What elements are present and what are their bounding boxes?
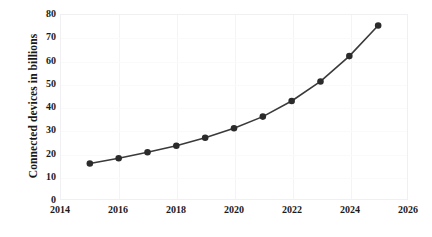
series-line xyxy=(90,25,378,163)
data-point-marker: 2015: 15.41 xyxy=(87,160,94,167)
data-point-marker: 2021: 35.82 xyxy=(260,113,267,120)
y-tick-label: 50 xyxy=(30,79,56,89)
y-tick-label: 70 xyxy=(30,32,56,42)
y-tick-label: 30 xyxy=(30,125,56,135)
y-tick-label: 40 xyxy=(30,102,56,112)
x-axis-tick-labels: 2014201620182020202220242026 xyxy=(60,203,408,221)
y-axis-tick-labels: 01020304050607080 xyxy=(30,14,56,200)
data-point-marker: 2024: 62.12 xyxy=(346,53,353,60)
x-tick-label: 2024 xyxy=(340,203,360,217)
x-tick-label: 2026 xyxy=(398,203,418,217)
data-point-marker: 2023: 51.11 xyxy=(317,78,324,85)
y-tick-label: 80 xyxy=(30,9,56,19)
x-tick-label: 2016 xyxy=(108,203,128,217)
y-tick-label: 10 xyxy=(30,172,56,182)
data-point-marker: 2019: 26.66 xyxy=(202,134,209,141)
y-tick-label: 20 xyxy=(30,149,56,159)
x-tick-label: 2020 xyxy=(224,203,244,217)
x-tick-label: 2018 xyxy=(166,203,186,217)
data-point-marker: 2017: 20.35 xyxy=(144,149,151,156)
data-point-marker: 2025: 75.44 xyxy=(375,22,382,29)
data-point-marker: 2018: 23.14 xyxy=(173,143,180,150)
data-point-marker: 2016: 17.68 xyxy=(115,155,122,162)
data-point-marker: 2020: 30.73 xyxy=(231,125,238,132)
x-tick-label: 2022 xyxy=(282,203,302,217)
data-point-marker: 2022: 42.62 xyxy=(288,98,295,105)
data-series-connected-devices: 2015: 15.412016: 17.682017: 20.352018: 2… xyxy=(61,15,407,199)
y-tick-label: 60 xyxy=(30,56,56,66)
line-chart-figure: Connected devices in billions 0102030405… xyxy=(0,0,432,237)
plot-area: 2015: 15.412016: 17.682017: 20.352018: 2… xyxy=(60,14,408,200)
x-tick-label: 2014 xyxy=(50,203,70,217)
